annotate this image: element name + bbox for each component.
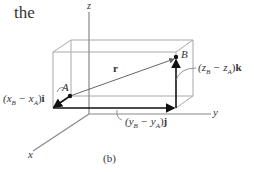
point-b-label: B xyxy=(181,49,188,60)
figure-caption: (b) xyxy=(103,153,116,164)
j-component-label: (yB − yA)j xyxy=(125,116,167,130)
y-axis-label: y xyxy=(213,107,218,118)
x-axis xyxy=(33,114,89,151)
i-component-arrow xyxy=(54,96,70,107)
point-a-label: A xyxy=(62,82,69,93)
i-component-label: (xB − xA)i xyxy=(3,93,45,107)
vector-diagram xyxy=(0,0,254,174)
x-axis-label: x xyxy=(28,149,33,160)
z-axis-label: z xyxy=(87,1,91,11)
k-component-label: (zB − zA)k xyxy=(198,62,242,76)
point-b-dot xyxy=(174,55,178,59)
box-front-face xyxy=(53,40,193,108)
axes xyxy=(33,12,211,151)
j-leader-curve xyxy=(117,110,122,120)
r-vector-arrow xyxy=(70,59,174,96)
r-vector-label: r xyxy=(113,63,118,74)
point-a-dot xyxy=(68,94,72,98)
